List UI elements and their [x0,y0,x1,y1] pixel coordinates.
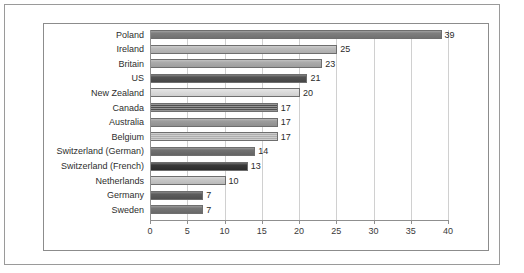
bar-shading [151,60,321,67]
bar-value-label: 23 [325,60,335,69]
chart-plot-frame: 0510152025303540Poland39Ireland25Britain… [43,23,489,251]
bar-value-label: 7 [206,191,211,200]
bar-shading [151,163,247,170]
bar-shading [151,192,202,199]
category-label: Switzerland (French) [0,162,148,171]
category-label: Australia [0,118,148,127]
bar-value-label: 21 [310,74,320,83]
bar [151,162,248,171]
category-label: New Zealand [0,89,148,98]
bar [151,132,278,141]
x-axis-tick-label: 0 [135,226,165,237]
figure-outer-frame: 0510152025303540Poland39Ireland25Britain… [4,4,500,265]
x-axis-tick-label: 5 [172,226,202,237]
x-axis-tick-label: 15 [247,226,277,237]
category-label: Germany [0,191,148,200]
x-axis-tick [374,220,375,224]
category-label: US [0,74,148,83]
x-axis-tick-label: 10 [210,226,240,237]
x-axis-tick [299,220,300,224]
bar [151,30,442,39]
bar [151,205,203,214]
bar-shading [151,46,336,53]
gridline [336,30,337,220]
bar-shading [151,89,299,96]
bar [151,88,300,97]
bar-value-label: 13 [251,162,261,171]
category-label: Sweden [0,206,148,215]
bar-shading [151,148,254,155]
bar [151,59,322,68]
bar-value-label: 7 [206,206,211,215]
bar [151,191,203,200]
bar-value-label: 17 [281,118,291,127]
bar-value-label: 20 [303,89,313,98]
x-axis-tick-label: 25 [321,226,351,237]
x-axis-tick [225,220,226,224]
bar-value-label: 17 [281,133,291,142]
bar-texture [151,104,277,111]
bar-shading [151,75,306,82]
x-axis-tick-label: 35 [396,226,426,237]
bar-texture [151,133,277,140]
x-axis-tick [262,220,263,224]
bar [151,118,278,127]
bar [151,103,278,112]
x-axis-tick [411,220,412,224]
x-axis-tick-label: 40 [433,226,463,237]
bar-value-label: 10 [229,177,239,186]
bar [151,74,307,83]
bar [151,147,255,156]
x-axis-tick-label: 20 [284,226,314,237]
bar-value-label: 14 [258,147,268,156]
bar-value-label: 17 [281,104,291,113]
bar-shading [151,31,441,38]
x-axis-tick [336,220,337,224]
x-axis-tick [187,220,188,224]
bar-shading [151,206,202,213]
x-axis-tick-label: 30 [359,226,389,237]
bar [151,45,337,54]
category-label: Ireland [0,45,148,54]
chart-plot-area: 0510152025303540Poland39Ireland25Britain… [44,24,488,250]
gridline [448,30,449,220]
bar-shading [151,177,225,184]
category-label: Britain [0,60,148,69]
category-label: Belgium [0,133,148,142]
x-axis-tick [150,220,151,224]
category-label: Netherlands [0,177,148,186]
bar [151,176,226,185]
bar-value-label: 39 [445,31,455,40]
bar-shading [151,119,277,126]
x-axis-tick [448,220,449,224]
category-label: Canada [0,104,148,113]
bar-value-label: 25 [340,45,350,54]
gridline [374,30,375,220]
category-label: Poland [0,31,148,40]
gridline [411,30,412,220]
category-label: Switzerland (German) [0,147,148,156]
